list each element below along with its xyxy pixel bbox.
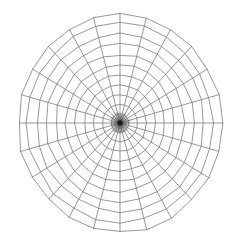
grid-origin-dot xyxy=(117,121,122,126)
polar-grid-figure xyxy=(0,0,242,251)
polar-grid-canvas xyxy=(0,0,242,251)
